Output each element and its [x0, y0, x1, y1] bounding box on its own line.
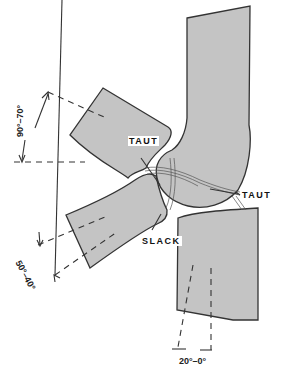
- label-slack: SLACK: [141, 236, 182, 246]
- joint-diagram: [0, 0, 281, 374]
- label-taut-upper: TAUT: [128, 136, 159, 146]
- lower-bone: [177, 208, 258, 320]
- middle-left-segment: [66, 174, 167, 268]
- upper-bone: [156, 6, 250, 207]
- angle-upper: 90°–70°: [15, 105, 25, 137]
- angle-bottom: 20°–0°: [179, 356, 206, 366]
- arrowhead-upper: [42, 92, 49, 100]
- arrow-upper-angle: [35, 94, 48, 128]
- label-taut-right: TAUT: [241, 190, 272, 200]
- arrowhead-middle-lower: [54, 275, 60, 282]
- arrow-middle-angle-lower: [55, 0, 62, 275]
- upper-left-segment: [70, 88, 171, 178]
- arrow-middle-angle: [39, 232, 40, 245]
